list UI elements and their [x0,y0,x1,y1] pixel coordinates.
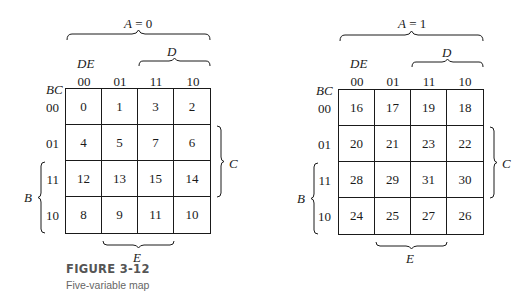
brace-b-icon [309,162,319,235]
minterm-cell: 22 [447,126,483,162]
minterm-cell: 17 [375,90,411,126]
kmap-a1: A = 1 D DE BC 00 01 11 10 00 01 11 10 16… [0,0,527,304]
map-title: A = 1 [398,16,426,32]
col-header: 11 [411,74,447,90]
label-b: B [297,191,305,207]
minterm-cell: 23 [411,126,447,162]
col-header: 00 [339,74,375,90]
minterm-cell: 25 [375,198,411,234]
row-header: 00 [307,101,331,117]
kmap-grid: 16 17 19 18 20 21 23 22 28 29 31 30 24 2… [338,89,484,235]
row-var-label: BC [316,83,333,99]
minterm-cell: 24 [339,198,375,234]
minterm-cell: 31 [411,162,447,198]
title-variable: A [398,16,406,31]
minterm-cell: 18 [447,90,483,126]
minterm-cell: 27 [411,198,447,234]
figure-caption: Five-variable map [66,279,149,291]
minterm-cell: 21 [375,126,411,162]
col-header: 01 [375,74,411,90]
brace-c-icon [489,126,499,199]
brace-d-icon [411,59,484,69]
label-c: C [502,156,511,172]
minterm-cell: 19 [411,90,447,126]
row-header: 01 [307,137,331,153]
title-value: = 1 [406,16,426,31]
minterm-cell: 30 [447,162,483,198]
col-header: 10 [447,74,483,90]
brace-e-icon [375,241,448,251]
minterm-cell: 16 [339,90,375,126]
minterm-cell: 26 [447,198,483,234]
minterm-cell: 29 [375,162,411,198]
brace-a-icon [339,31,484,43]
figure-number: FIGURE 3-12 [66,262,150,276]
minterm-cell: 20 [339,126,375,162]
minterm-cell: 28 [339,162,375,198]
label-e: E [406,251,414,267]
col-var-label: DE [350,56,367,72]
